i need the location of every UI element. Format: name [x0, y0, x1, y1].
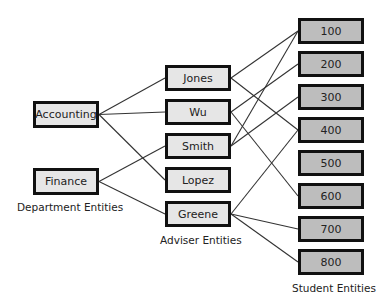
department-entity-label: Finance [45, 175, 87, 188]
adviser-entity-label: Wu [189, 106, 206, 119]
student-entity-400: 400 [298, 117, 364, 143]
student-entity-200: 200 [298, 51, 364, 77]
student-entity-label: 500 [321, 157, 342, 170]
student-entity-label: 300 [321, 91, 342, 104]
adviser-entity-label: Lopez [182, 174, 214, 187]
link-accounting-lopez [99, 115, 165, 181]
student-entity-600: 600 [298, 183, 364, 209]
student-entity-label: 200 [321, 58, 342, 71]
student-entity-label: 800 [321, 256, 342, 269]
student-entities-label: Student Entities [292, 282, 376, 294]
adviser-entity-greene: Greene [165, 201, 231, 227]
department-entity-label: Accounting [35, 108, 96, 121]
student-entity-100: 100 [298, 18, 364, 44]
department-entity-accounting: Accounting [33, 101, 99, 128]
student-entity-800: 800 [298, 249, 364, 275]
adviser-entity-smith: Smith [165, 133, 231, 159]
link-finance-smith [99, 146, 165, 182]
student-entity-label: 700 [321, 223, 342, 236]
adviser-entity-label: Jones [183, 72, 212, 85]
link-greene-400 [231, 130, 298, 214]
department-entity-finance: Finance [33, 168, 99, 195]
adviser-entity-jones: Jones [165, 65, 231, 91]
adviser-entities-label: Adviser Entities [160, 234, 242, 246]
student-entity-label: 100 [321, 25, 342, 38]
link-accounting-jones [99, 78, 165, 115]
adviser-entity-label: Smith [182, 140, 214, 153]
link-wu-600 [231, 112, 298, 196]
student-entity-500: 500 [298, 150, 364, 176]
student-entity-label: 400 [321, 124, 342, 137]
department-entities-label: Department Entities [17, 201, 123, 213]
adviser-entity-lopez: Lopez [165, 167, 231, 193]
link-accounting-wu [99, 112, 165, 115]
adviser-entity-wu: Wu [165, 99, 231, 125]
student-entity-700: 700 [298, 216, 364, 242]
student-entity-label: 600 [321, 190, 342, 203]
link-smith-100 [231, 31, 298, 146]
student-entity-300: 300 [298, 84, 364, 110]
adviser-entity-label: Greene [178, 208, 218, 221]
